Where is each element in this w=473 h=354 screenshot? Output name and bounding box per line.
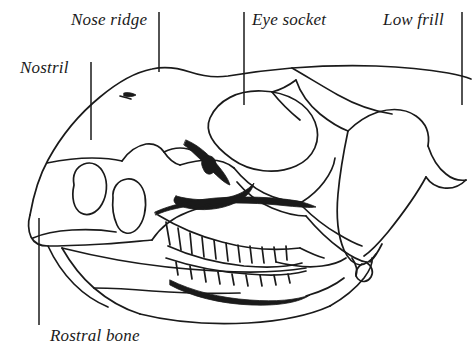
skull-diagram-figure: Nose ridge Eye socket Low frill Nostril … — [0, 0, 473, 354]
rostral-inner-crease — [33, 230, 116, 238]
jaw-joint-crease — [352, 258, 357, 276]
coronoid-process — [300, 248, 324, 258]
premaxilla-suture — [47, 158, 122, 163]
tooth-u5 — [214, 240, 216, 259]
tooth-u3 — [190, 233, 192, 254]
nostril-opening — [73, 163, 107, 215]
frill-outer-sweep — [428, 146, 466, 180]
tooth-u2 — [178, 228, 181, 250]
frill-inner-ventral — [337, 131, 360, 265]
tooth-u4 — [202, 237, 204, 257]
frill-margin-lower — [426, 177, 466, 188]
tooth-l7 — [260, 275, 262, 286]
predentary-beak — [48, 246, 108, 307]
lacrimal-foramen — [202, 156, 216, 174]
skull-roof-rear — [292, 68, 392, 114]
tooth-l6 — [246, 275, 248, 286]
antorbital-fenestra — [113, 179, 146, 233]
predentary-crease — [94, 288, 240, 293]
tooth-l5 — [232, 274, 234, 285]
nasal-suture-upper — [122, 144, 180, 165]
tooth-l2 — [190, 266, 192, 279]
frill-ventral-sweep — [364, 177, 426, 256]
tooth-u1 — [166, 222, 170, 245]
label-eye-socket: Eye socket — [252, 10, 326, 30]
cranium-dorsal-outline — [30, 66, 471, 215]
snout-foramen — [124, 93, 136, 97]
dentary-ventral-margin — [140, 306, 330, 324]
squamosal-notch — [302, 158, 335, 202]
angular-edge — [306, 278, 344, 296]
tooth-l9 — [288, 274, 290, 283]
eye-socket-orbit — [208, 91, 317, 171]
label-low-frill: Low frill — [383, 10, 444, 30]
label-rostral-bone: Rostral bone — [50, 326, 140, 346]
parietal-suture — [272, 80, 296, 92]
label-nostril: Nostril — [20, 58, 69, 78]
tooth-l1 — [176, 262, 178, 275]
skull-outline-group — [29, 66, 471, 324]
quadratojugal-line — [302, 206, 362, 246]
frill-upper-sweep — [348, 110, 429, 146]
rostral-bone-outline — [29, 215, 152, 246]
tooth-l8 — [274, 275, 276, 285]
tooth-u6 — [226, 243, 228, 261]
label-nose-ridge: Nose ridge — [71, 10, 147, 30]
tooth-l4 — [218, 272, 220, 284]
tooth-u7 — [238, 245, 240, 262]
dentary-dorsal-margin — [62, 248, 306, 272]
tooth-u11 — [286, 246, 287, 260]
skull-illustration — [0, 0, 473, 354]
